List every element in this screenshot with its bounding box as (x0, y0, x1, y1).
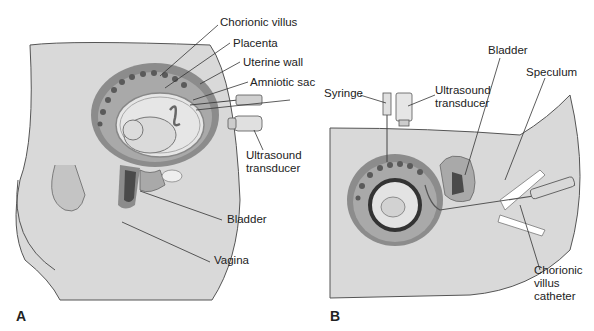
label-amniotic-sac: Amniotic sac (250, 76, 315, 89)
label-catheter-line1: Chorionic (534, 264, 583, 277)
label-bladder-b: Bladder (488, 44, 528, 57)
panel-label-b: B (330, 308, 340, 324)
label-catheter-line3: catheter (534, 290, 576, 303)
label-ultrasound-transducer-b-line1: Ultrasound (435, 84, 491, 97)
label-speculum: Speculum (526, 66, 577, 79)
label-bladder-a: Bladder (227, 213, 267, 226)
label-syringe: Syringe (324, 87, 363, 100)
label-placenta: Placenta (233, 37, 278, 50)
panel-label-a: A (16, 308, 26, 324)
label-ultrasound-transducer-a-line2: transducer (246, 162, 300, 175)
label-chorionic-villus-a: Chorionic villus (220, 16, 297, 29)
label-catheter-line2: villus (534, 277, 560, 290)
label-ultrasound-transducer-b-line2: transducer (435, 97, 489, 110)
label-ultrasound-transducer-a-line1: Ultrasound (246, 149, 302, 162)
label-vagina: Vagina (214, 254, 249, 267)
label-uterine-wall: Uterine wall (243, 56, 303, 69)
